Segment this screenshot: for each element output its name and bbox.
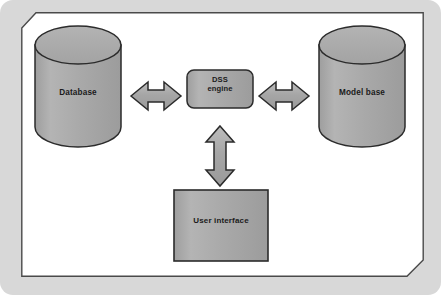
node-label-database: Database (29, 88, 127, 98)
inner-plate-outline (22, 13, 423, 276)
node-label-user-interface: User interface (172, 216, 270, 225)
node-label-model-base: Model base (313, 88, 411, 98)
dss-architecture-diagram: Database DSS engine Model base User inte… (0, 0, 441, 295)
node-label-dss-engine: DSS engine (184, 76, 256, 94)
diagram-inner-plate (21, 12, 424, 277)
